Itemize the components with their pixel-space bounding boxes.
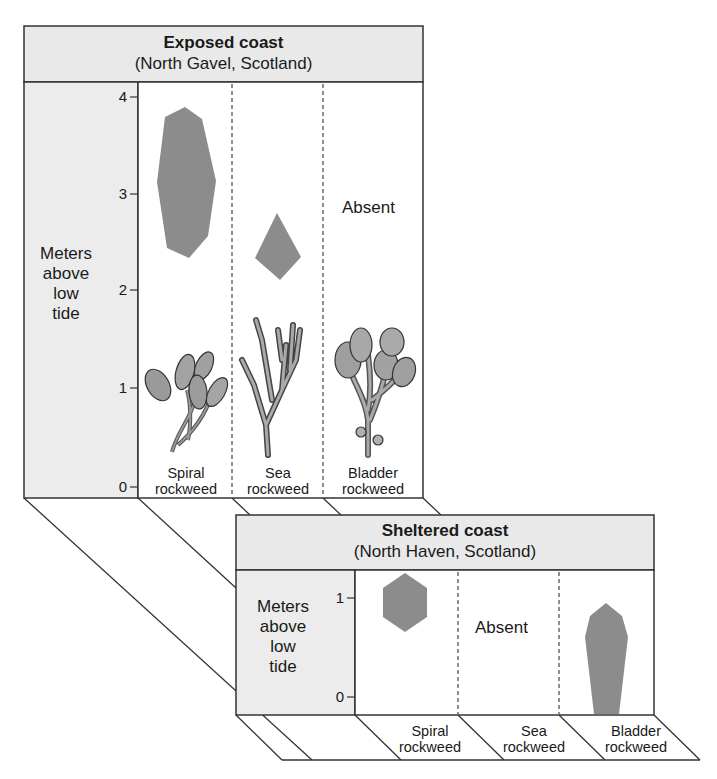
exposed-tick-4: 4	[107, 88, 127, 105]
sheltered-species-sea: Sea rockweed	[482, 723, 586, 755]
exposed-tick-1: 1	[107, 379, 127, 396]
exposed-species-spiral: Spiral rockweed	[140, 465, 232, 497]
species-line: Sea	[233, 465, 323, 481]
species-line: Sea	[482, 723, 586, 739]
ylabel-line: above	[28, 264, 104, 284]
exposed-tick-3: 3	[107, 185, 127, 202]
species-line: rockweed	[233, 481, 323, 497]
exposed-species-bladder: Bladder rockweed	[324, 465, 422, 497]
sheltered-species-spiral: Spiral rockweed	[378, 723, 482, 755]
ylabel-line: tide	[28, 304, 104, 324]
sheltered-ylabel: Meters above low tide	[240, 597, 326, 677]
species-line: rockweed	[584, 739, 688, 755]
species-line: Spiral	[378, 723, 482, 739]
species-line: rockweed	[378, 739, 482, 755]
exposed-species-sea: Sea rockweed	[233, 465, 323, 497]
exposed-subtitle: (North Gavel, Scotland)	[24, 54, 423, 74]
species-line: Spiral	[140, 465, 232, 481]
ylabel-line: tide	[240, 657, 326, 677]
sheltered-tick-0: 0	[324, 688, 344, 705]
sheltered-sea-absent: Absent	[475, 618, 528, 638]
species-line: Bladder	[584, 723, 688, 739]
species-line: rockweed	[482, 739, 586, 755]
exposed-title: Exposed coast	[24, 33, 423, 53]
species-line: Bladder	[324, 465, 422, 481]
sheltered-subtitle: (North Haven, Scotland)	[236, 542, 654, 562]
ylabel-line: low	[28, 284, 104, 304]
sheltered-tick-1: 1	[324, 589, 344, 606]
species-line: rockweed	[324, 481, 422, 497]
ylabel-line: low	[240, 637, 326, 657]
species-line: rockweed	[140, 481, 232, 497]
sheltered-species-bladder: Bladder rockweed	[584, 723, 688, 755]
ylabel-line: above	[240, 617, 326, 637]
sheltered-title: Sheltered coast	[236, 521, 654, 541]
exposed-tick-0: 0	[107, 478, 127, 495]
exposed-tick-2: 2	[107, 281, 127, 298]
ylabel-line: Meters	[28, 244, 104, 264]
exposed-bladder-absent: Absent	[342, 198, 395, 218]
ylabel-line: Meters	[240, 597, 326, 617]
exposed-ylabel: Meters above low tide	[28, 244, 104, 324]
